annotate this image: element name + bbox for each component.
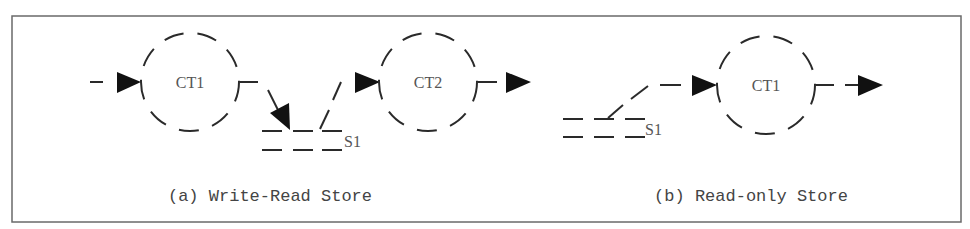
panel-b-read-edge-2 — [631, 86, 648, 99]
panel-a-read-edge-1 — [320, 110, 329, 129]
panel-a-s1-label: S1 — [344, 133, 361, 150]
panel-a-output-arrowhead-icon — [506, 72, 531, 93]
panel-b-s1-label: S1 — [645, 121, 662, 138]
panel-b-output-arrowhead-icon — [858, 75, 883, 96]
panel-b-ct1-label: CT1 — [752, 77, 780, 94]
panel-a-input-arrowhead-icon — [117, 72, 141, 93]
panel-b-read-only-store: S1 CT1 (b) Read-only Store — [563, 36, 883, 206]
panel-a-write-read-store: CT1 S1 CT2 (a) Write-Read Store — [90, 33, 531, 206]
panel-a-write-arrowhead-icon — [270, 103, 290, 130]
panel-a-caption: (a) Write-Read Store — [168, 187, 372, 206]
panel-a-ct2-label: CT2 — [414, 74, 442, 91]
panel-b-read-arrowhead-icon — [692, 75, 717, 96]
panel-a-read-edge-2 — [333, 82, 341, 100]
diagram-canvas: CT1 S1 CT2 (a) Write-Read Store — [0, 0, 970, 229]
panel-a-ct1-label: CT1 — [176, 74, 204, 91]
panel-a-write-edge — [268, 90, 278, 110]
panel-a-store-s1 — [262, 131, 342, 150]
panel-b-store-s1 — [563, 119, 645, 137]
panel-a-read-arrowhead-icon — [355, 72, 380, 93]
panel-b-caption: (b) Read-only Store — [654, 187, 848, 206]
panel-b-read-edge-1 — [608, 105, 623, 118]
